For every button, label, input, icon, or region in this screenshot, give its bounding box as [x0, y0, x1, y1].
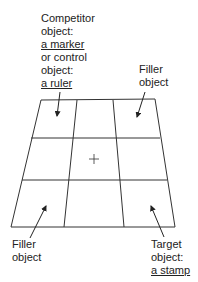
fixation-cross-icon — [89, 154, 99, 164]
filler-top-label: Filler object — [139, 63, 168, 89]
filler-bottom-arrow-icon — [30, 206, 46, 238]
filler-top-arrow-icon — [137, 92, 145, 117]
target-arrow-icon — [151, 206, 164, 237]
target-label: Target object: a stamp — [151, 238, 190, 277]
grid-outline — [11, 99, 175, 227]
grid-line-v1 — [64, 100, 77, 227]
competitor-arrow-icon — [57, 92, 60, 116]
filler-bottom-label: Filler object — [12, 238, 41, 264]
competitor-label: Competitor object: a marker or control o… — [41, 12, 95, 90]
grid-line-v2 — [113, 100, 124, 227]
